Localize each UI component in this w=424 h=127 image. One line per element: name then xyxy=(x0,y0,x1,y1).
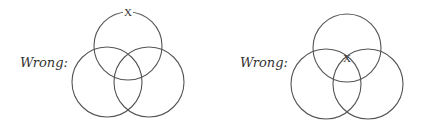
venn-diagram-left: X xyxy=(72,6,184,117)
circle-right-left-diagram xyxy=(114,47,184,117)
diagram-figure: Wrong: Wrong: X X xyxy=(0,0,424,127)
circle-top-right-diagram xyxy=(313,14,381,82)
x-mark-right: X xyxy=(343,52,351,64)
circle-left-left-diagram xyxy=(72,47,142,117)
venn-diagram-right: X xyxy=(291,14,403,119)
x-mark-left: X xyxy=(124,6,132,18)
circle-top-left-diagram xyxy=(94,12,162,80)
venn-diagrams-svg: X X xyxy=(0,0,424,127)
